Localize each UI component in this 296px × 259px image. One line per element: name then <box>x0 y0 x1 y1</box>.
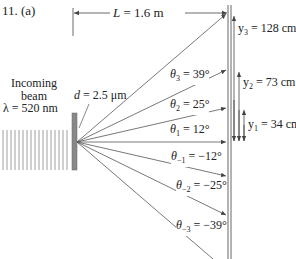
spacing-pointer <box>79 104 89 128</box>
theta-value: = −12° <box>185 149 221 163</box>
position-label-3: y3 = 128 cm <box>238 22 296 39</box>
distance-label: L = 1.6 m <box>111 6 166 19</box>
angle-label-neg1: θ−1 = −12° <box>171 150 222 167</box>
diffraction-grating <box>72 113 77 170</box>
theta-value: = −39° <box>190 218 226 232</box>
distance-value: = 1.6 m <box>120 5 163 20</box>
incoming-beam-lines <box>3 130 67 170</box>
angle-label-2: θ2 = 25° <box>170 98 209 115</box>
wavelength-label: λ = 520 nm <box>3 102 58 115</box>
theta-value: = 25° <box>180 97 210 111</box>
theta-value: = 39° <box>180 67 210 81</box>
angle-label-neg2: θ−2 = −25° <box>176 179 227 196</box>
diffraction-diagram: 11. (a) L = 1.6 m Incoming beam λ = 520 … <box>0 0 296 259</box>
theta-value: = 12° <box>180 122 210 136</box>
y-value: = 34 cm <box>258 117 296 131</box>
angle-label-1: θ1 = 12° <box>170 123 209 140</box>
spacing-label: d = 2.5 μm <box>74 89 127 102</box>
incoming-beam-label: Incoming beam <box>8 77 60 103</box>
position-label-1: y1 = 34 cm <box>248 118 296 135</box>
viewing-screen <box>228 5 231 259</box>
angle-label-neg3: θ−3 = −39° <box>176 219 227 236</box>
theta-value: = −25° <box>190 178 226 192</box>
problem-label: 11. (a) <box>2 4 35 17</box>
spacing-value: = 2.5 μm <box>80 88 127 102</box>
y-value: = 73 cm <box>253 75 295 89</box>
y-value: = 128 cm <box>248 21 296 35</box>
position-label-2: y2 = 73 cm <box>243 76 295 93</box>
angle-label-3: θ3 = 39° <box>170 68 209 85</box>
